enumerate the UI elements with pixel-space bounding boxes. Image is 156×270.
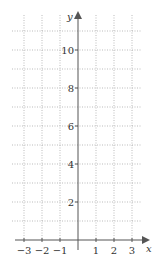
x-tick-label: −2: [35, 245, 50, 256]
y-axis-arrow-icon: [74, 11, 82, 19]
y-axis-label: y: [66, 11, 73, 22]
y-tick-label: 2: [68, 197, 74, 208]
x-tick-label: −3: [17, 245, 32, 256]
y-tick-label: 6: [68, 121, 74, 132]
coordinate-grid: xy−3−2−1123246810: [0, 0, 156, 270]
x-tick-label: −1: [53, 245, 68, 256]
y-tick-label: 8: [68, 83, 74, 94]
x-tick-label: 2: [111, 245, 117, 256]
x-tick-label: 1: [93, 245, 99, 256]
y-tick-label: 4: [68, 159, 74, 170]
y-tick-label: 10: [61, 45, 74, 56]
x-axis-label: x: [146, 243, 152, 254]
x-tick-label: 3: [129, 245, 135, 256]
